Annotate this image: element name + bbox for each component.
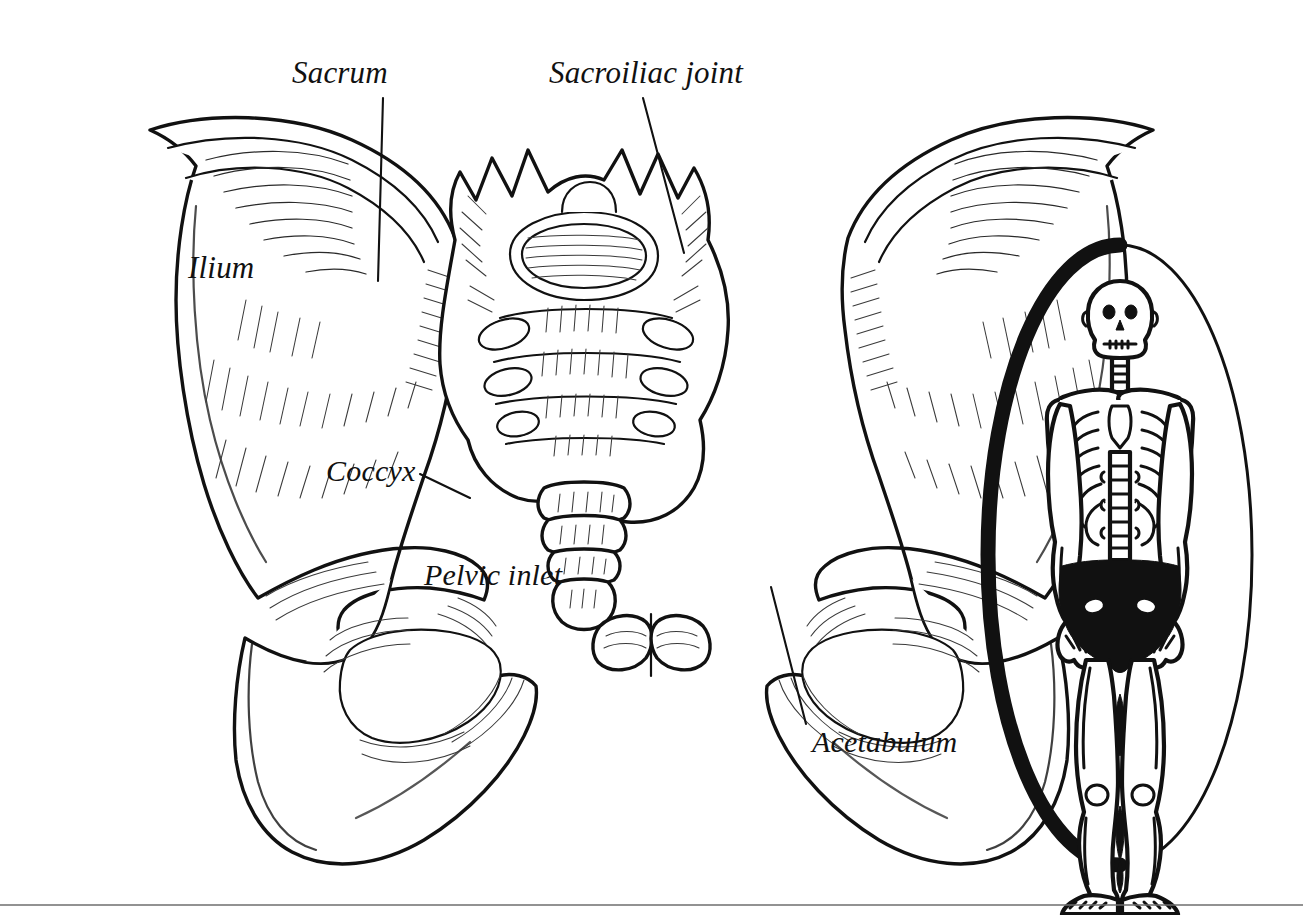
leader-coccyx	[420, 474, 470, 498]
label-sacroiliac-joint: Sacroiliac joint	[549, 55, 744, 90]
pubic-symphysis	[593, 614, 710, 676]
anatomy-figure: Sacrum Sacroiliac joint Ilium Coccyx Pel…	[0, 0, 1303, 915]
label-acetabulum: Acetabulum	[810, 725, 957, 758]
label-pelvic-inlet: Pelvic inlet	[423, 558, 563, 591]
label-ilium: Ilium	[187, 250, 254, 285]
figure-canvas: Sacrum Sacroiliac joint Ilium Coccyx Pel…	[0, 0, 1303, 915]
label-coccyx: Coccyx	[326, 454, 416, 487]
label-sacrum: Sacrum	[292, 55, 388, 90]
